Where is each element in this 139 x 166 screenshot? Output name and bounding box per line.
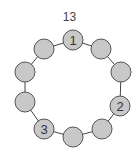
node-circle xyxy=(91,39,111,59)
node-label: 3 xyxy=(40,122,47,137)
node-circle xyxy=(15,92,35,112)
ring-nodes: 123 xyxy=(15,30,131,147)
node-circle xyxy=(63,127,83,147)
node-circle xyxy=(92,119,112,139)
node xyxy=(111,62,131,82)
node xyxy=(92,119,112,139)
node xyxy=(15,92,35,112)
node-label: 1 xyxy=(69,33,76,48)
node-label: 2 xyxy=(116,99,123,114)
node-1: 1 xyxy=(63,30,83,50)
node xyxy=(34,39,54,59)
node xyxy=(63,127,83,147)
ring-diagram: 123 xyxy=(0,0,139,166)
node-circle xyxy=(34,39,54,59)
node-circle xyxy=(15,62,35,82)
node-2: 2 xyxy=(110,96,130,116)
node xyxy=(15,62,35,82)
node xyxy=(91,39,111,59)
node-3: 3 xyxy=(34,119,54,139)
node-circle xyxy=(111,62,131,82)
